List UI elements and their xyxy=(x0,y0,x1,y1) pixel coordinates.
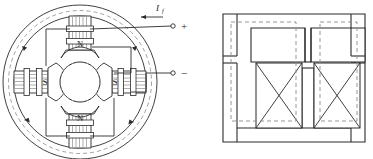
coil-cap-left-inner xyxy=(37,69,43,96)
left-machine-diagram: N N xyxy=(3,3,187,159)
coil-cap-bottom-lower xyxy=(67,133,94,139)
current-label-subscript: f xyxy=(162,8,165,14)
terminal-dot-negative[interactable] xyxy=(171,71,175,75)
coil-cap-top-upper xyxy=(67,26,94,32)
rotor-circle xyxy=(60,62,100,102)
figure-container: N N xyxy=(0,0,373,159)
pole-label-bottom: N xyxy=(77,113,83,123)
current-label: I xyxy=(155,3,160,13)
terminal-label-positive: + xyxy=(181,20,187,32)
coil-left xyxy=(256,63,302,128)
terminal-dot-positive[interactable] xyxy=(171,24,175,28)
pole-label-left: S xyxy=(43,77,48,87)
diagram-canvas: N N xyxy=(0,0,373,159)
core-window-upper-left xyxy=(251,28,305,62)
pole-label-top: N xyxy=(77,39,83,49)
right-core-diagram xyxy=(223,14,365,142)
pole-label-right: S xyxy=(113,77,118,87)
current-indicator: I f xyxy=(141,3,165,17)
coil-right xyxy=(314,63,360,128)
coil-cap-left-outer xyxy=(24,69,30,96)
terminal-label-negative: − xyxy=(181,67,187,79)
core-notch-left xyxy=(237,28,251,62)
terminal-group: + − xyxy=(171,20,187,79)
